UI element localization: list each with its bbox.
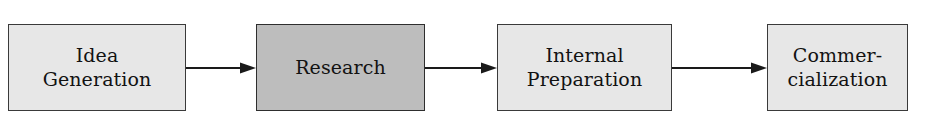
process-box-label: Research xyxy=(289,56,392,79)
process-box-internal-preparation[interactable]: Internal Preparation xyxy=(497,24,672,111)
connector-arrow-2 xyxy=(425,61,497,75)
connector-arrow-3 xyxy=(672,61,767,75)
arrow-right-icon xyxy=(672,61,767,75)
process-box-label: Idea Generation xyxy=(37,44,158,90)
process-flow-diagram: Idea Generation Research Internal Prepar… xyxy=(0,0,926,133)
process-box-idea-generation[interactable]: Idea Generation xyxy=(8,24,186,111)
arrow-right-icon xyxy=(425,61,497,75)
arrow-right-icon xyxy=(186,61,256,75)
process-box-research[interactable]: Research xyxy=(256,24,425,111)
process-box-label: Commer- cialization xyxy=(781,44,893,90)
connector-arrow-1 xyxy=(186,61,256,75)
process-box-label: Internal Preparation xyxy=(521,44,649,90)
process-box-commercialization[interactable]: Commer- cialization xyxy=(767,24,908,111)
